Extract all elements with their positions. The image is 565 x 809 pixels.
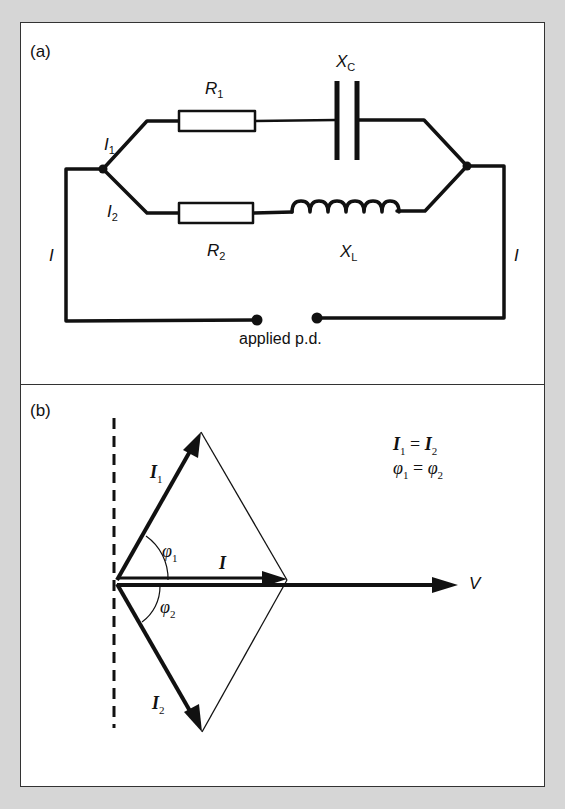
phasor-v-arrowhead <box>432 577 458 593</box>
parallelogram-lower <box>202 580 287 732</box>
resistor-r2 <box>179 203 253 223</box>
label-xc: XC <box>336 52 355 73</box>
parallelogram-upper <box>201 432 287 580</box>
wire-r1-to-cap <box>255 120 336 121</box>
label-xl: XL <box>340 242 357 263</box>
wire-left <box>66 169 256 321</box>
equation-i1-equals-i2: I1 = I2 <box>393 434 437 457</box>
resistor-r1 <box>179 111 255 131</box>
label-current-i-right: I <box>514 246 519 266</box>
label-phasor-i2: I2 <box>152 693 165 716</box>
junction-left <box>99 165 108 174</box>
label-applied-pd: applied p.d. <box>239 330 322 348</box>
wire-r2-to-inductor <box>253 212 292 213</box>
circuit-diagram <box>66 81 504 321</box>
label-current-i1: I1 <box>104 135 115 156</box>
circuit-and-phasor-drawing <box>0 0 565 809</box>
inductor-coil <box>292 201 399 212</box>
label-phasor-i: I <box>219 553 226 574</box>
label-r2: R2 <box>207 241 225 262</box>
label-phi1: φ1 <box>162 541 177 564</box>
panel-a-label: (a) <box>30 42 51 62</box>
label-current-i2: I2 <box>107 202 118 223</box>
wire-upper-branch-right <box>358 120 467 166</box>
phasor-i1-arrowhead <box>183 432 201 458</box>
label-r1: R1 <box>205 79 223 100</box>
equation-phi1-equals-phi2: φ1 = φ2 <box>393 458 443 481</box>
wire-lower-branch-right <box>397 166 467 211</box>
label-phasor-i1: I1 <box>150 462 163 485</box>
circuit-nodes <box>99 162 472 326</box>
label-phasor-v: V <box>469 574 480 594</box>
terminal-right <box>312 313 323 324</box>
label-current-i-left: I <box>49 246 54 266</box>
terminal-left <box>252 315 263 326</box>
panel-b-label: (b) <box>30 401 51 421</box>
label-phi2: φ2 <box>160 597 175 620</box>
junction-right <box>463 162 472 171</box>
angle-arc-phi2 <box>142 586 160 622</box>
